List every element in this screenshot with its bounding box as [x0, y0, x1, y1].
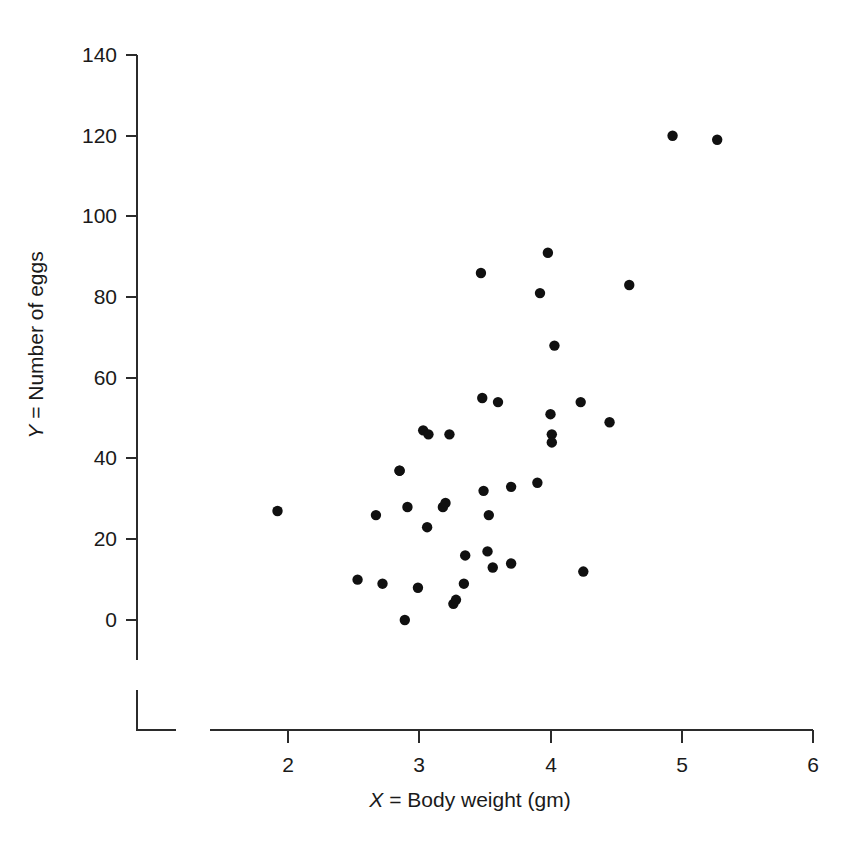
data-point [484, 510, 494, 520]
data-point [394, 465, 404, 475]
data-point [547, 437, 557, 447]
y-tick-label: 100 [82, 204, 117, 227]
x-axis-ticks [288, 730, 813, 743]
data-points-layer [272, 131, 722, 626]
data-point [604, 417, 614, 427]
data-point [478, 486, 488, 496]
y-tick-label: 120 [82, 124, 117, 147]
data-point [667, 131, 677, 141]
axis-corner-connector [137, 690, 176, 730]
data-point [422, 522, 432, 532]
scatter-plot-figure: 140 120 100 80 60 40 20 0 2 3 4 5 6 X = … [0, 0, 854, 846]
data-point [371, 510, 381, 520]
data-point [545, 409, 555, 419]
data-point [543, 248, 553, 258]
data-point [272, 506, 282, 516]
x-tick-label: 6 [807, 753, 819, 776]
data-point [493, 397, 503, 407]
data-point [578, 566, 588, 576]
data-point [352, 574, 362, 584]
y-tick-label: 80 [94, 285, 117, 308]
y-axis-title-rest: = Number of eggs [24, 251, 47, 424]
data-point [532, 478, 542, 488]
data-point [624, 280, 634, 290]
data-point [575, 397, 585, 407]
y-axis-title: Y = Number of eggs [24, 251, 47, 438]
y-axis-ticks [126, 55, 137, 620]
data-point [400, 615, 410, 625]
plot-canvas: 140 120 100 80 60 40 20 0 2 3 4 5 6 X = … [0, 0, 854, 846]
data-point [482, 546, 492, 556]
data-point [506, 482, 516, 492]
x-tick-label: 3 [413, 753, 425, 776]
x-axis-tick-labels: 2 3 4 5 6 [282, 753, 819, 776]
data-point [506, 558, 516, 568]
data-point [535, 288, 545, 298]
data-point [413, 583, 423, 593]
data-point [476, 268, 486, 278]
data-point [444, 429, 454, 439]
data-point [459, 578, 469, 588]
data-point [451, 595, 461, 605]
data-point [423, 429, 433, 439]
data-point [488, 562, 498, 572]
y-tick-label: 20 [94, 527, 117, 550]
x-axis-title-rest: = Body weight (gm) [383, 788, 570, 811]
y-tick-label: 60 [94, 366, 117, 389]
y-tick-label: 40 [94, 446, 117, 469]
data-point [440, 498, 450, 508]
data-point [477, 393, 487, 403]
x-axis-title: X = Body weight (gm) [368, 788, 570, 811]
x-axis-title-variable: X [368, 788, 384, 811]
x-tick-label: 4 [545, 753, 557, 776]
y-axis-tick-labels: 140 120 100 80 60 40 20 0 [82, 43, 117, 631]
y-tick-label: 140 [82, 43, 117, 66]
data-point [549, 340, 559, 350]
x-tick-label: 2 [282, 753, 294, 776]
data-point [402, 502, 412, 512]
data-point [460, 550, 470, 560]
data-point [712, 135, 722, 145]
data-point [377, 578, 387, 588]
y-tick-label: 0 [105, 608, 117, 631]
x-tick-label: 5 [676, 753, 688, 776]
